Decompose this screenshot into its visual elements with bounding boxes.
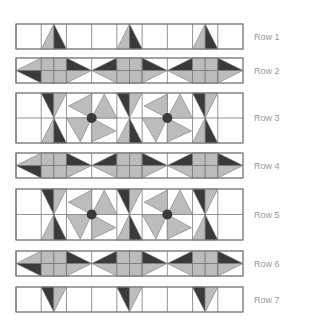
square-light [41, 251, 54, 264]
square-light [130, 251, 143, 264]
square-light [41, 153, 54, 166]
row-label-5: Row 5 [254, 210, 280, 220]
square-light [54, 71, 67, 84]
square-light [130, 153, 143, 166]
square-light [130, 71, 143, 84]
square-light [205, 251, 218, 264]
square-light [54, 264, 67, 277]
square-light [41, 264, 54, 277]
center-dot-icon [87, 113, 97, 123]
square-light [41, 166, 54, 179]
square-light [193, 71, 206, 84]
row-label-2: Row 2 [254, 66, 280, 76]
square-light [117, 71, 130, 84]
center-dot-icon [162, 210, 172, 220]
center-dot-icon [87, 210, 97, 220]
square-light [205, 166, 218, 179]
square-light [130, 166, 143, 179]
square-light [205, 58, 218, 71]
square-light [130, 58, 143, 71]
row-label-6: Row 6 [254, 259, 280, 269]
square-light [130, 264, 143, 277]
square-light [117, 251, 130, 264]
square-light [117, 58, 130, 71]
center-dot-icon [162, 113, 172, 123]
square-light [54, 153, 67, 166]
square-light [205, 71, 218, 84]
row-label-1: Row 1 [254, 32, 280, 42]
square-light [205, 264, 218, 277]
square-light [117, 264, 130, 277]
square-light [117, 166, 130, 179]
square-light [205, 153, 218, 166]
row-label-4: Row 4 [254, 161, 280, 171]
square-light [41, 58, 54, 71]
square-light [41, 71, 54, 84]
square-light [193, 58, 206, 71]
square-light [193, 166, 206, 179]
square-light [54, 251, 67, 264]
square-light [193, 153, 206, 166]
square-light [54, 58, 67, 71]
square-light [193, 264, 206, 277]
square-light [54, 166, 67, 179]
square-light [117, 153, 130, 166]
row-label-7: Row 7 [254, 295, 280, 305]
row-label-3: Row 3 [254, 113, 280, 123]
square-light [193, 251, 206, 264]
